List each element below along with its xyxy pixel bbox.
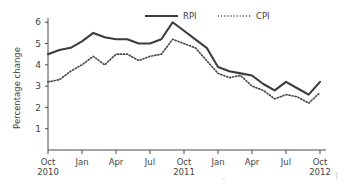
x-tick-year-label: 2010 xyxy=(37,167,59,177)
x-tick-label: Apr xyxy=(109,157,124,167)
legend-label-rpi: RPI xyxy=(183,11,197,21)
y-tick-label: 1 xyxy=(35,124,41,134)
x-axis: Oct2010JanAprJulOct2011JanAprJulOct2012 xyxy=(37,150,331,177)
y-axis: 123456 xyxy=(35,17,48,150)
y-tick-label: 5 xyxy=(35,39,41,49)
x-axis-tick-labels: Oct2010JanAprJulOct2011JanAprJulOct2012 xyxy=(37,157,331,177)
x-tick-label: Jul xyxy=(280,157,291,167)
y-tick-label: 2 xyxy=(35,103,41,113)
x-tick-label: Oct xyxy=(313,157,328,167)
legend-label-cpi: CPI xyxy=(256,11,270,21)
y-axis-tick-labels: 123456 xyxy=(35,17,41,133)
chart-canvas: RPI CPI 123456 Oct2010JanAprJulOct2011Ja… xyxy=(0,0,344,191)
x-tick-label: Oct xyxy=(177,157,192,167)
x-tick-label: Apr xyxy=(245,157,260,167)
chart-legend: RPI CPI xyxy=(145,11,270,21)
y-tick-label: 3 xyxy=(35,81,41,91)
x-tick-label: Jan xyxy=(210,157,224,167)
y-tick-label: 4 xyxy=(35,60,41,70)
x-tick-label: Oct xyxy=(41,157,56,167)
x-tick-label: Jul xyxy=(144,157,155,167)
x-tick-year-label: 2011 xyxy=(173,167,195,177)
series-line-cpi xyxy=(48,39,320,103)
y-tick-label: 6 xyxy=(35,17,41,27)
series-line-rpi xyxy=(48,22,320,94)
x-tick-year-label: 2012 xyxy=(309,167,331,177)
y-axis-title: Percentage change xyxy=(12,47,22,129)
inflation-line-chart: RPI CPI 123456 Oct2010JanAprJulOct2011Ja… xyxy=(0,0,344,191)
x-axis-ticks xyxy=(48,150,320,154)
chart-plot-area xyxy=(48,22,320,103)
x-tick-label: Jan xyxy=(74,157,88,167)
